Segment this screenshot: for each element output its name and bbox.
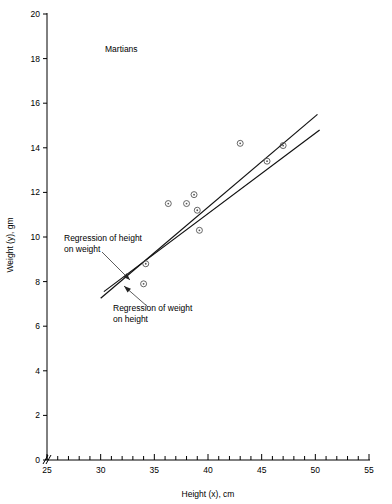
data-point	[141, 281, 147, 287]
data-point-center	[167, 203, 169, 205]
data-point	[237, 140, 243, 146]
y-axis-title: Weight (y), gm	[5, 217, 15, 272]
y-tick-label: 0	[35, 455, 40, 465]
annotation-line-1: Regression of weight	[113, 303, 193, 313]
y-tick-label: 12	[31, 187, 41, 197]
x-tick-label: 50	[311, 465, 321, 475]
data-point	[165, 201, 171, 207]
data-point-center	[193, 194, 195, 196]
regression-line	[101, 114, 318, 298]
data-point-center	[196, 209, 198, 211]
data-point	[184, 201, 190, 207]
data-point	[196, 227, 202, 233]
data-point-center	[239, 142, 241, 144]
y-tick-label: 14	[31, 143, 41, 153]
data-point-center	[266, 160, 268, 162]
y-tick-label: 4	[35, 366, 40, 376]
x-axis-ticks	[47, 454, 369, 460]
y-tick-label: 8	[35, 277, 40, 287]
x-tick-label: 45	[257, 465, 267, 475]
x-tick-label: 30	[96, 465, 106, 475]
data-point-center	[145, 263, 147, 265]
y-axis-ticks	[43, 14, 47, 460]
chart-figure: 02468101214161820 25303540455055 Height …	[0, 0, 392, 504]
data-point	[191, 192, 197, 198]
x-tick-label: 35	[150, 465, 160, 475]
y-tick-label: 2	[35, 410, 40, 420]
y-tick-label: 10	[31, 232, 41, 242]
data-point-center	[282, 145, 284, 147]
y-tick-label: 18	[31, 54, 41, 64]
x-axis-tick-labels: 25303540455055	[42, 465, 374, 475]
x-tick-label: 25	[42, 465, 52, 475]
scatter-plot: 02468101214161820 25303540455055 Height …	[0, 0, 392, 504]
data-point	[143, 261, 149, 267]
annotation-weight-on-height: Regression of weighton height	[113, 286, 193, 324]
data-point-center	[143, 283, 145, 285]
regression-lines	[101, 114, 320, 298]
annotation-line-2: on height	[113, 314, 149, 324]
data-point-center	[199, 229, 201, 231]
data-point	[194, 207, 200, 213]
chart-title: Martians	[105, 44, 138, 54]
y-tick-label: 6	[35, 321, 40, 331]
y-axis-tick-labels: 02468101214161820	[31, 9, 41, 465]
x-axis-title: Height (x), cm	[182, 489, 235, 499]
y-tick-label: 20	[31, 9, 41, 19]
annotation-line-2: on weight	[64, 244, 101, 254]
data-point-markers	[141, 140, 287, 286]
annotation-line-1: Regression of height	[64, 233, 143, 243]
data-point-center	[186, 203, 188, 205]
annotation-labels: Regression of heighton weightRegression …	[64, 233, 193, 324]
y-tick-label: 16	[31, 98, 41, 108]
data-point	[264, 158, 270, 164]
x-tick-label: 40	[203, 465, 213, 475]
x-tick-label: 55	[364, 465, 374, 475]
